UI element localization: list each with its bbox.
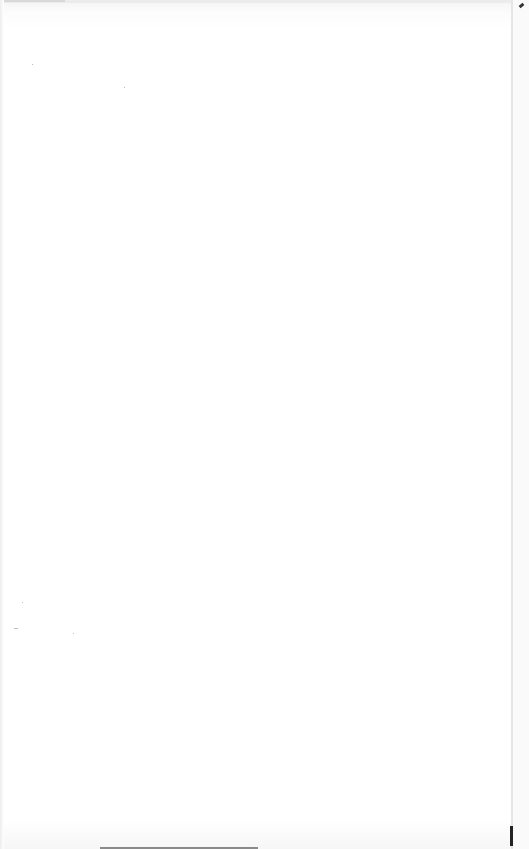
left-edge [0,0,4,849]
right-margin [513,0,529,849]
top-edge [0,0,529,3]
speck [14,628,18,629]
speck [22,602,23,603]
speck [73,633,74,634]
bottom-right-mark [510,826,513,846]
speck [32,64,33,65]
top-edge-shadow [0,0,65,2]
speck [124,87,125,88]
blank-page [0,0,529,849]
